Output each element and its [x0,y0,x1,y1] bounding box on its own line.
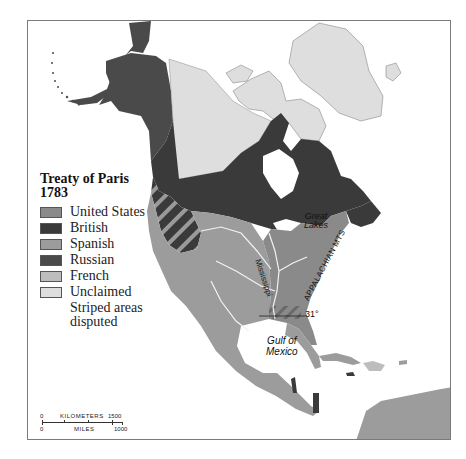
legend-note-line2: disputed [70,315,190,329]
legend-label: French [70,268,109,284]
swatch-spanish [40,239,62,250]
scale-tick [64,420,65,423]
hispaniola [363,361,385,371]
scale-line [42,422,122,423]
cuba [319,353,361,365]
scale-km-start: 0 [40,413,43,419]
legend-title-line1: Treaty of Paris [40,172,190,186]
label-gulf-of-mexico: Gulf of Mexico [266,335,298,357]
scale-tick [88,420,89,423]
legend-item-spanish: Spanish [40,236,190,252]
legend-note: Striped areas disputed [70,301,190,329]
label-31-degrees: 31° [305,309,319,319]
legend-label: Unclaimed [70,284,131,300]
label-gulf-of: Gulf of [266,335,298,346]
swatch-russian [40,255,62,266]
swatch-french [40,271,62,282]
legend-item-french: French [40,268,190,284]
scale-tick [42,420,43,425]
legend-title: Treaty of Paris 1783 [40,172,190,200]
legend-item-russian: Russian [40,252,190,268]
legend-label: Russian [70,252,114,268]
legend-label: United States [70,204,145,220]
mosquito-coast-british [313,393,319,413]
scale-km-label: KILOMETERS [60,413,104,419]
legend-item-british: British [40,220,190,236]
jamaica [346,372,355,376]
swatch-united-states [40,207,62,218]
label-mexico: Mexico [266,346,298,357]
legend-label: Spanish [70,236,114,252]
swatch-british [40,223,62,234]
puerto-rico [399,360,407,365]
legend-item-unclaimed: Unclaimed [40,284,190,300]
scale-bar: 0 KILOMETERS 1500 0 MILES 1000 [40,408,140,438]
aleutian-islands [51,52,81,106]
label-lakes: Lakes [304,221,328,230]
legend-label: British [70,220,108,236]
scale-mi-start: 0 [40,426,43,432]
scale-tick [122,422,123,425]
scale-tick [112,420,113,425]
label-great-lakes: Great Lakes [304,212,328,230]
scale-km-end: 1500 [108,413,121,419]
swatch-unclaimed [40,287,62,298]
legend-note-line1: Striped areas [70,301,190,315]
legend-title-year: 1783 [40,186,190,200]
legend: Treaty of Paris 1783 United States Briti… [40,172,190,329]
south-america-spanish [356,387,451,440]
scale-mi-end: 1000 [114,426,127,432]
scale-mi-label: MILES [74,426,95,432]
legend-item-united-states: United States [40,204,190,220]
